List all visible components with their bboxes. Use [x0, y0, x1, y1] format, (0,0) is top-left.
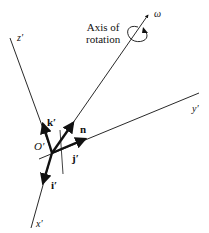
caption-line-2: rotation: [86, 33, 120, 45]
n-vector-label: n: [80, 124, 86, 135]
j-vector-label: j′: [72, 153, 79, 164]
y-axis-label: y′: [192, 104, 199, 114]
omega-label: ω: [154, 9, 161, 19]
x-axis-label: x′: [36, 219, 43, 229]
z-axis-label: z′: [17, 33, 23, 43]
origin-label: O′: [34, 141, 44, 152]
rotation-curl-arrowhead-icon: [142, 27, 148, 33]
k-vector-label: k′: [47, 117, 56, 128]
i-vector-label: i′: [51, 180, 57, 191]
caption-line-1: Axis of: [86, 21, 120, 33]
axis-of-rotation-caption: Axis of rotation: [86, 21, 120, 45]
